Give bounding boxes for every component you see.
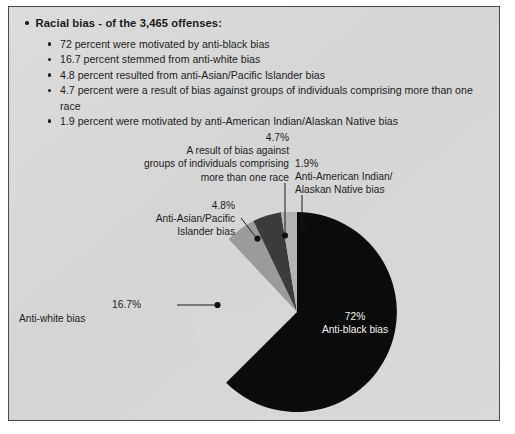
callout-anti-black-pct: 72%	[285, 310, 425, 323]
callout-anti-asian: 4.8% Anti-Asian/Pacific Islander bias	[45, 199, 235, 239]
callout-anti-asian-line2: Islander bias	[45, 225, 235, 238]
callout-anti-white-name: Anti-white bias	[19, 312, 179, 325]
callout-anti-white-pct: 16.7%	[19, 298, 141, 311]
leader-dot-multi-race	[282, 232, 288, 238]
callout-multi-race-pct: 4.7%	[69, 131, 289, 144]
callout-anti-black: 72% Anti-black bias	[285, 310, 425, 337]
leader-dot-anti-asian	[254, 235, 260, 241]
callout-anti-white-line1: Anti-white bias	[19, 312, 179, 325]
callout-anti-asian-line1: Anti-Asian/Pacific	[45, 212, 235, 225]
callout-multi-race-line2: groups of individuals comprising	[69, 157, 289, 170]
callout-multi-race-line3: more than one race	[69, 171, 289, 184]
callout-multi-race: 4.7% A result of bias against groups of …	[69, 131, 289, 184]
callout-anti-american-indian-line1: Anti-American Indian/	[295, 170, 495, 183]
callout-anti-american-indian-pct: 1.9%	[295, 157, 495, 170]
content-panel: Racial bias - of the 3,465 offenses: 72 …	[8, 6, 500, 421]
callout-anti-american-indian-line2: Alaskan Native bias	[295, 183, 495, 196]
callout-anti-asian-pct: 4.8%	[45, 199, 235, 212]
leader-dot-anti-american-indian	[299, 225, 305, 231]
screenshot-page: Racial bias - of the 3,465 offenses: 72 …	[0, 0, 515, 434]
callout-anti-white: 16.7%	[19, 298, 141, 311]
callout-multi-race-line1: A result of bias against	[69, 144, 289, 157]
callout-anti-american-indian: 1.9% Anti-American Indian/ Alaskan Nativ…	[295, 157, 495, 197]
leader-dot-anti-white	[214, 302, 220, 308]
callout-anti-black-line1: Anti-black bias	[285, 323, 425, 336]
pie-chart: 4.7% A result of bias against groups of …	[9, 7, 500, 421]
